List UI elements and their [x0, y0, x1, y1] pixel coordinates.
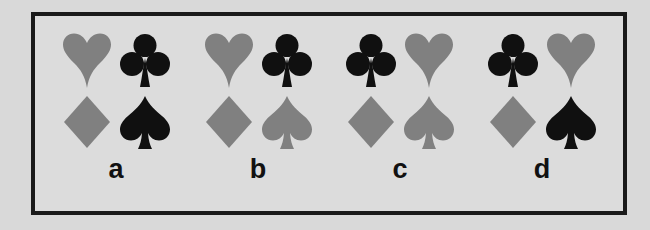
suit-cell-top-left: [59, 31, 115, 91]
card-group-c[interactable]: c: [334, 30, 466, 183]
heart-icon: [203, 32, 255, 90]
suit-cell-top-right: [117, 31, 173, 91]
suit-cell-top-left: [485, 31, 541, 91]
club-icon: [261, 32, 313, 90]
suit-grid: [343, 30, 457, 152]
card-group-row: abcd: [35, 16, 623, 211]
heart-icon: [545, 32, 597, 90]
suit-grid: [59, 30, 173, 152]
spade-icon: [119, 93, 171, 151]
card-group-b[interactable]: b: [192, 30, 324, 183]
suit-cell-top-left: [343, 31, 399, 91]
club-icon: [119, 32, 171, 90]
suit-cell-bottom-left: [59, 92, 115, 152]
diamond-icon: [487, 93, 539, 151]
suit-cell-bottom-left: [343, 92, 399, 152]
suit-cell-bottom-right: [259, 92, 315, 152]
card-group-label: d: [534, 156, 551, 183]
suit-cell-bottom-right: [117, 92, 173, 152]
diamond-icon: [203, 93, 255, 151]
suit-cell-top-right: [401, 31, 457, 91]
suit-cell-top-left: [201, 31, 257, 91]
club-icon: [345, 32, 397, 90]
suit-cell-top-right: [259, 31, 315, 91]
suit-cell-bottom-right: [543, 92, 599, 152]
stimulus-panel: abcd: [31, 12, 627, 215]
diamond-icon: [345, 93, 397, 151]
card-group-label: a: [108, 156, 123, 183]
diamond-icon: [61, 93, 113, 151]
spade-icon: [261, 93, 313, 151]
card-group-label: c: [392, 156, 407, 183]
suit-grid: [201, 30, 315, 152]
suit-grid: [485, 30, 599, 152]
suit-cell-bottom-right: [401, 92, 457, 152]
card-group-label: b: [250, 156, 267, 183]
suit-cell-bottom-left: [485, 92, 541, 152]
heart-icon: [403, 32, 455, 90]
club-icon: [487, 32, 539, 90]
heart-icon: [61, 32, 113, 90]
spade-icon: [403, 93, 455, 151]
card-group-a[interactable]: a: [50, 30, 182, 183]
card-group-d[interactable]: d: [476, 30, 608, 183]
suit-cell-top-right: [543, 31, 599, 91]
spade-icon: [545, 93, 597, 151]
suit-cell-bottom-left: [201, 92, 257, 152]
